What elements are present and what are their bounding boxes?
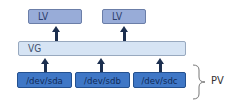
logical-volume-1-label: LV [38, 11, 48, 22]
pv-label: PV [211, 74, 224, 87]
device-sdc: /dev/sdc [133, 72, 186, 88]
logical-volume-2-label: LV [112, 11, 122, 22]
device-sdb: /dev/sdb [75, 72, 130, 88]
volume-group-label: VG [28, 43, 41, 54]
device-sda-label: /dev/sda [26, 75, 63, 86]
device-sdb-label: /dev/sdb [84, 75, 121, 86]
device-sda: /dev/sda [17, 72, 72, 88]
logical-volume-2: LV [102, 9, 146, 24]
device-sdc-label: /dev/sdc [141, 75, 177, 86]
volume-group: VG [18, 41, 186, 56]
logical-volume-1: LV [28, 9, 82, 24]
curly-brace-icon [191, 64, 209, 100]
